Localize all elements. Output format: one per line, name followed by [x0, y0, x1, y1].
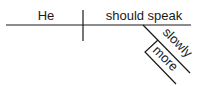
sentence-diagram: He should speak slowly more	[0, 0, 203, 86]
subject-word: He	[38, 8, 55, 23]
predicate-word: should speak	[106, 8, 183, 23]
